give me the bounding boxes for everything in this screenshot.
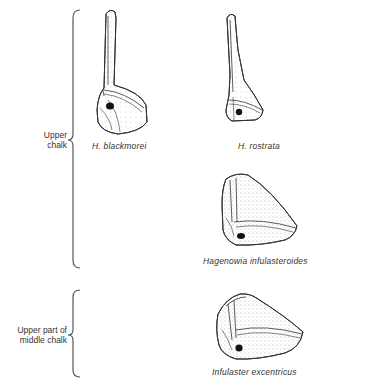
species-label-infulaster-excentricus: Infulaster excentricus — [212, 367, 297, 377]
zone-label-line: middle chalk — [0, 335, 67, 345]
infulaster-excentricus-drawing — [217, 294, 303, 359]
middle-chalk-bracket — [68, 290, 80, 377]
species-label-hagenowia-infulasteroides: Hagenowia infulasteroides — [203, 256, 308, 266]
h-rostrata-drawing — [226, 14, 263, 121]
zone-label-line: Upper — [30, 130, 67, 140]
zone-label-upper-chalk: Upper chalk — [30, 130, 67, 150]
species-label-h-blackmorei: H. blackmorei — [92, 141, 147, 151]
zone-label-middle-chalk: Upper part of middle chalk — [0, 325, 67, 345]
zone-label-line: Upper part of — [0, 325, 67, 335]
species-label-h-rostrata: H. rostrata — [238, 141, 280, 151]
hagenowia-infulasteroides-drawing — [222, 174, 297, 245]
zone-label-line: chalk — [30, 140, 67, 150]
upper-chalk-bracket — [68, 10, 80, 268]
h-blackmorei-drawing — [97, 10, 147, 134]
